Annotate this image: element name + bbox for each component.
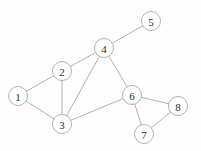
graph-edge-3-6 <box>71 99 123 121</box>
graph-diagram-canvas: 12345678 <box>0 0 201 151</box>
graph-node-6[interactable]: 6 <box>123 86 142 105</box>
graph-node-5[interactable]: 5 <box>142 12 161 31</box>
graph-edge-7-8 <box>151 112 170 128</box>
graph-node-8[interactable]: 8 <box>169 97 188 116</box>
graph-node-label-5: 5 <box>148 16 154 28</box>
graph-svg-root: 12345678 <box>0 0 201 151</box>
node-layer: 12345678 <box>9 12 188 144</box>
graph-node-4[interactable]: 4 <box>95 39 114 58</box>
graph-edge-1-2 <box>26 76 53 92</box>
graph-edge-4-6 <box>109 56 127 87</box>
graph-edge-4-5 <box>112 26 143 44</box>
graph-edge-6-7 <box>135 104 141 125</box>
graph-node-label-6: 6 <box>129 90 135 102</box>
graph-node-7[interactable]: 7 <box>135 125 154 144</box>
graph-node-label-3: 3 <box>59 119 65 131</box>
graph-node-label-7: 7 <box>141 129 147 141</box>
graph-edge-6-8 <box>141 97 169 104</box>
graph-edge-1-3 <box>26 101 54 119</box>
graph-node-1[interactable]: 1 <box>9 87 28 106</box>
graph-node-label-4: 4 <box>101 43 107 55</box>
graph-edge-3-4 <box>67 56 100 115</box>
graph-edge-2-4 <box>70 53 95 67</box>
graph-node-label-8: 8 <box>175 101 181 113</box>
graph-node-3[interactable]: 3 <box>53 115 72 134</box>
graph-node-label-2: 2 <box>59 66 65 78</box>
graph-node-label-1: 1 <box>15 91 21 103</box>
graph-node-2[interactable]: 2 <box>53 62 72 81</box>
